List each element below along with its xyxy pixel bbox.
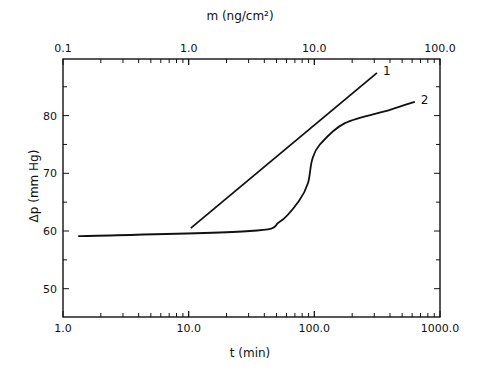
x-tick-label: 100.0 <box>299 322 331 335</box>
x2-tick-label: 100.0 <box>424 42 456 55</box>
y-tick-label: 80 <box>43 110 57 123</box>
y-tick-label: 60 <box>43 225 57 238</box>
y-tick-label: 50 <box>43 283 57 296</box>
plot-frame <box>63 59 440 317</box>
x2-tick-label: 10.0 <box>302 42 327 55</box>
x2-tick-label: 1.0 <box>180 42 198 55</box>
series-label-1: 1 <box>383 64 391 78</box>
y-tick-label: 70 <box>43 167 57 180</box>
series-line-2 <box>78 102 415 236</box>
y-axis-tick-labels: 50607080 <box>43 110 57 296</box>
bottom-axis-tick-labels: 1.010.0100.01000.0 <box>54 322 459 335</box>
x2-tick-label: 0.1 <box>54 42 72 55</box>
top-axis-title: m (ng/cm²) <box>206 9 273 23</box>
top-axis-tick-labels: 0.11.010.0100.0 <box>54 42 456 55</box>
series-labels: 12 <box>383 64 428 107</box>
y-axis-title: Δp (mm Hg) <box>27 150 41 223</box>
x-tick-label: 10.0 <box>176 322 201 335</box>
series-lines <box>78 73 415 236</box>
series-line-1 <box>191 73 377 228</box>
series-label-2: 2 <box>421 93 429 107</box>
x-tick-label: 1000.0 <box>421 322 460 335</box>
x-axis-title: t (min) <box>230 346 271 360</box>
chart: m (ng/cm²) 0.11.010.0100.0 1.010.0100.01… <box>0 0 478 380</box>
axis-ticks <box>63 59 440 317</box>
x-tick-label: 1.0 <box>54 322 72 335</box>
